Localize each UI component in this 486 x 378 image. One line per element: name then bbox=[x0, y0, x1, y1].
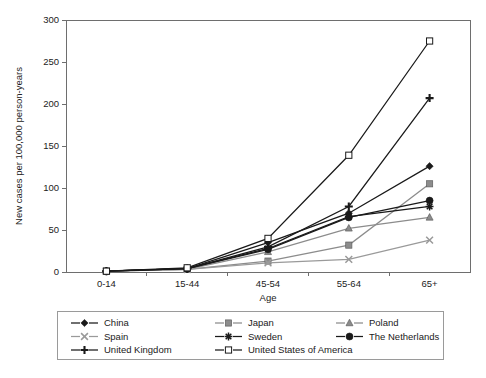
x-tick-label: 45-54 bbox=[256, 278, 280, 289]
data-marker-square-filled bbox=[225, 320, 231, 326]
legend-label-text: Sweden bbox=[248, 331, 282, 342]
legend-label-text: Japan bbox=[248, 317, 274, 328]
x-tick-label: 65+ bbox=[422, 278, 439, 289]
legend-label-text: Spain bbox=[104, 331, 128, 342]
x-tick-label: 15-44 bbox=[175, 278, 199, 289]
x-tick-label: 0-14 bbox=[97, 278, 116, 289]
marker-triangle bbox=[426, 214, 433, 221]
data-marker-square-open bbox=[225, 347, 231, 353]
marker-diamond bbox=[426, 163, 433, 170]
marker-circle bbox=[346, 333, 353, 340]
legend-label-text: United States of America bbox=[248, 344, 353, 355]
data-marker-square-open bbox=[184, 265, 190, 271]
series-united-kingdom bbox=[102, 94, 433, 275]
data-marker-square-filled bbox=[427, 181, 433, 187]
marker-square-open bbox=[265, 235, 271, 241]
y-tick-label: 50 bbox=[48, 224, 59, 235]
x-axis-ticks: 0-1415-4445-5455-6465+ bbox=[97, 272, 438, 289]
data-marker-square-open bbox=[265, 235, 271, 241]
y-axis-title-text: New cases per 100,000 person-years bbox=[13, 67, 24, 225]
marker-square-open bbox=[184, 265, 190, 271]
y-axis-ticks: 050100150200250300 bbox=[43, 14, 66, 277]
plot-frame bbox=[66, 20, 470, 272]
data-marker-square-filled bbox=[346, 242, 352, 248]
marker-asterisk bbox=[225, 333, 233, 341]
marker-circle bbox=[426, 197, 433, 204]
marker-square bbox=[427, 181, 433, 187]
data-marker-diamond-filled bbox=[426, 163, 433, 170]
data-marker-square-open bbox=[103, 268, 109, 274]
series-united-states-of-america bbox=[103, 38, 432, 274]
marker-square-open bbox=[346, 152, 352, 158]
chart-figure: 050100150200250300 0-1415-4445-5455-6465… bbox=[0, 0, 486, 378]
data-marker-triangle-filled bbox=[426, 214, 433, 221]
series-japan bbox=[103, 181, 432, 275]
series-path bbox=[106, 166, 429, 271]
data-marker-square-open bbox=[346, 152, 352, 158]
y-tick-label: 300 bbox=[43, 14, 59, 25]
data-marker-circle-filled bbox=[426, 197, 433, 204]
y-tick-label: 150 bbox=[43, 140, 59, 151]
y-tick-label: 100 bbox=[43, 182, 59, 193]
y-tick-label: 250 bbox=[43, 56, 59, 67]
legend-label-text: The Netherlands bbox=[369, 331, 439, 342]
data-marker-square-open bbox=[427, 38, 433, 44]
marker-square-open bbox=[427, 38, 433, 44]
marker-circle bbox=[345, 214, 352, 221]
y-tick-label: 200 bbox=[43, 98, 59, 109]
data-marker-asterisk bbox=[225, 333, 233, 341]
chart-legend: ChinaJapanPolandSpainSwedenThe Netherlan… bbox=[57, 311, 443, 359]
legend-label-text: United Kingdom bbox=[104, 344, 172, 355]
x-axis-title-text: Age bbox=[260, 292, 277, 303]
line-chart: 050100150200250300 0-1415-4445-5455-6465… bbox=[0, 0, 486, 378]
series-layer bbox=[102, 38, 433, 275]
x-tick-label: 55-64 bbox=[337, 278, 361, 289]
marker-square-open bbox=[225, 347, 231, 353]
plot-border bbox=[66, 20, 470, 272]
marker-square bbox=[225, 320, 231, 326]
legend-label-text: China bbox=[104, 317, 130, 328]
y-axis-title: New cases per 100,000 person-years bbox=[13, 67, 24, 225]
y-tick-label: 0 bbox=[54, 266, 59, 277]
marker-square bbox=[346, 242, 352, 248]
marker-square-open bbox=[103, 268, 109, 274]
data-marker-circle-filled bbox=[345, 214, 352, 221]
data-marker-circle-filled bbox=[346, 333, 353, 340]
x-axis-title: Age bbox=[260, 292, 277, 303]
legend-label-text: Poland bbox=[369, 317, 399, 328]
